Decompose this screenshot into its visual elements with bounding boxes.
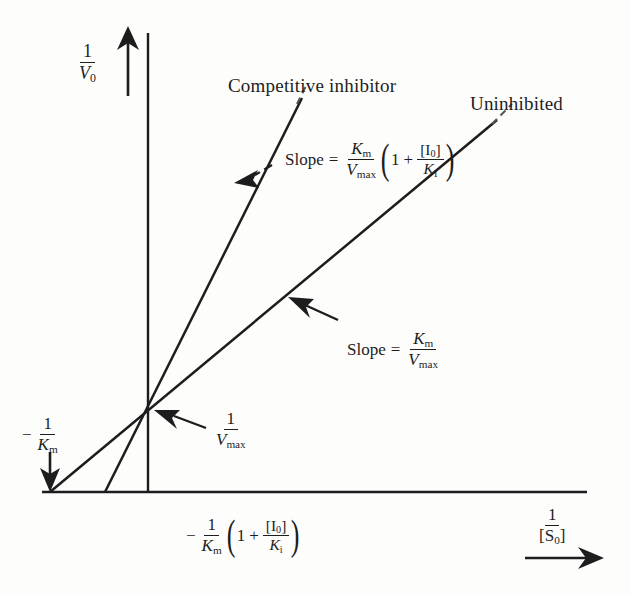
x-intercept-comp-inner-den-sub: i: [280, 544, 283, 555]
x-axis-label: 1 [S0]: [536, 506, 568, 544]
x-intercept-comp-numerator: 1: [204, 516, 219, 536]
competitive-slope-arrow-icon: [234, 165, 272, 188]
uninhibited-slope-equals: =: [391, 341, 401, 358]
competitive-slope-den-sub: max: [357, 168, 376, 180]
x-axis-label-denominator-close: ]: [560, 526, 566, 545]
x-intercept-comp-inner-den: K: [269, 536, 279, 553]
lineweaver-burk-figure: 1 V0 Competitive inhibitor Uninhibited S…: [0, 0, 630, 594]
x-intercept-comp-minus: −: [186, 527, 196, 544]
x-intercept-comp-inner-num-sub: 0: [276, 524, 281, 535]
uninhibited-slope-num: K: [413, 329, 424, 348]
x-axis-label-denominator-sub: 0: [554, 534, 560, 546]
x-axis-direction-arrow-icon: [525, 547, 604, 569]
y-intercept-label: 1 Vmax: [213, 410, 249, 448]
competitive-inner-den: K: [424, 160, 434, 177]
uninhibited-slope-prefix: Slope: [347, 341, 386, 358]
uninhibited-label: Uninhibited: [470, 94, 563, 113]
competitive-slope-prefix: Slope: [285, 151, 324, 168]
competitive-inner-num: [I: [420, 141, 430, 158]
uninhibited-slope-num-sub: m: [424, 337, 433, 349]
competitive-slope-den: V: [346, 160, 356, 179]
competitive-paren-open: (: [381, 146, 390, 172]
y-intercept-denominator: V: [216, 430, 226, 449]
competitive-plus: +: [404, 151, 414, 168]
uninhibited-slope-den-sub: max: [419, 358, 438, 370]
x-intercept-comp-one: 1: [237, 527, 246, 544]
x-intercept-denominator-sub: m: [49, 443, 58, 455]
y-axis-label-denominator-sub: 0: [90, 71, 96, 85]
competitive-paren-close: ): [445, 146, 454, 172]
y-intercept-denominator-sub: max: [226, 438, 245, 450]
x-intercept-uninhibited-label: − 1 Km: [22, 415, 61, 453]
competitive-slope-num-sub: m: [362, 147, 371, 159]
competitive-inner-num-sub: 0: [430, 148, 435, 159]
x-intercept-comp-inner-num: [I: [266, 517, 276, 534]
uninhibited-slope-formula: Slope = Km Vmax: [347, 330, 441, 368]
x-axis-label-denominator: [S: [539, 526, 554, 545]
competitive-slope-num: K: [351, 139, 362, 158]
y-axis-label: 1 V0: [76, 42, 99, 82]
x-intercept-comp-inner-num-close: ]: [281, 517, 286, 534]
competitive-slope-equals: =: [329, 151, 339, 168]
competitive-inner-den-sub: I: [434, 168, 437, 179]
x-intercept-comp-paren-close: ): [291, 522, 300, 548]
competitive-inhibitor-curve: [105, 98, 302, 492]
y-axis-direction-arrow-icon: [117, 26, 139, 96]
uninhibited-slope-den: V: [408, 350, 418, 369]
y-axis-label-denominator: V: [79, 63, 90, 83]
x-intercept-numerator: 1: [40, 415, 55, 435]
y-intercept-arrow-icon: [154, 410, 206, 429]
competitive-one: 1: [391, 151, 400, 168]
y-axis-label-numerator: 1: [80, 42, 95, 63]
x-intercept-competitive-label: − 1 Km ( 1 + [I0] Ki ): [186, 516, 301, 554]
x-intercept-denominator: K: [38, 435, 49, 454]
x-intercept-comp-denominator: K: [202, 536, 213, 555]
x-axis-label-numerator: 1: [545, 506, 560, 526]
competitive-inhibitor-label: Competitive inhibitor: [228, 76, 396, 95]
x-intercept-comp-denominator-sub: m: [213, 544, 222, 556]
y-intercept-numerator: 1: [224, 410, 239, 430]
x-intercept-comp-paren-open: (: [226, 522, 235, 548]
competitive-slope-formula: Slope = Km Vmax ( 1 + [I0] KI ): [285, 140, 456, 178]
competitive-inner-num-close: ]: [436, 141, 441, 158]
uninhibited-slope-arrow-icon: [288, 297, 338, 320]
x-intercept-minus: −: [22, 426, 32, 443]
x-intercept-comp-plus: +: [249, 527, 259, 544]
